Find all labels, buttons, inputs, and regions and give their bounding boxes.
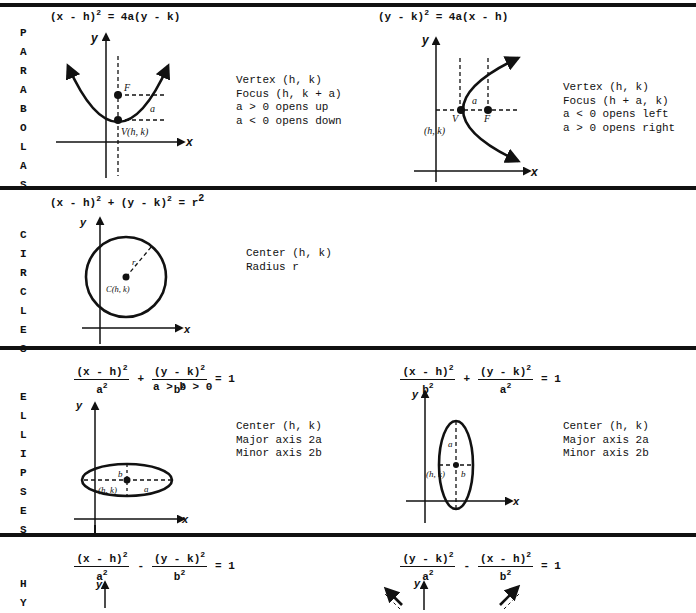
side-letter: E [20, 502, 27, 521]
vertical-parabola-equation: (x - h)2 = 4a(y - k) [50, 8, 180, 23]
numerator: (y - k) [402, 553, 448, 565]
note-line: Minor axis 2b [236, 447, 322, 461]
note-line: Radius r [246, 261, 332, 275]
right-asymptote [504, 593, 520, 609]
hyperbolas-side-label: H Y [20, 575, 27, 613]
section-divider-circles-ellipses [0, 346, 696, 350]
a-distance-label: a [150, 103, 155, 114]
equation-term: (x - h) [50, 197, 96, 209]
circle-notes: Center (h, k)Radius r [246, 247, 332, 274]
side-letter: R [20, 62, 27, 81]
exponent: 2 [103, 381, 108, 390]
side-letter: S [20, 483, 27, 502]
center-label: (h, k) [426, 469, 445, 479]
focus-label: F [483, 113, 491, 124]
note-line: a < 0 opens left [563, 108, 675, 122]
y-axis-label: y [411, 388, 419, 400]
equation-operator: + [137, 373, 144, 385]
x-axis-label: x [183, 323, 191, 335]
focus-point [114, 91, 122, 99]
a-distance-label: a [472, 95, 477, 106]
horizontal-ellipse-graph: y x b a (h, k) [60, 395, 200, 535]
horizontal-parabola-graph: y x a V F (h, k) [400, 30, 550, 185]
vertex-label: V(h, k) [121, 126, 149, 138]
y-axis-label: y [95, 578, 103, 590]
numerator: (x - h) [76, 553, 122, 565]
ellipse-axis-extension [94, 525, 96, 534]
side-letter: B [20, 100, 27, 119]
semi-major-label: a [448, 439, 453, 449]
side-letter: L [20, 138, 27, 157]
side-letter: S [20, 176, 27, 195]
horizontal-parabola-equation: (y - k)2 = 4a(x - h) [378, 8, 508, 23]
section-divider-top [0, 3, 696, 7]
radius-label: r [132, 257, 136, 267]
equation-term: = 4a(y - k) [101, 11, 180, 23]
numerator: (y - k) [480, 366, 526, 378]
focus-label: F [123, 82, 131, 93]
equation-rhs: = 1 [541, 560, 561, 572]
exponent: 2 [526, 363, 531, 372]
equation-rhs: = 1 [215, 373, 235, 385]
exponent: 2 [180, 568, 185, 577]
y-axis-label: y [75, 399, 83, 411]
exponent: 2 [123, 363, 128, 372]
section-divider-parabolas-circles [0, 186, 696, 190]
side-letter: H [20, 575, 27, 594]
exponent: 2 [449, 550, 454, 559]
note-line: Major axis 2a [236, 434, 322, 448]
exponent: 2 [526, 550, 531, 559]
exponent: 2 [198, 193, 204, 204]
note-line: Minor axis 2b [563, 447, 649, 461]
ellipses-side-label: E L L I P S E S [20, 388, 27, 540]
side-letter: A [20, 157, 27, 176]
circles-side-label: C I R C L E S [20, 226, 27, 359]
x-axis-label: x [181, 513, 189, 525]
numerator: (y - k) [154, 366, 200, 378]
center-point [123, 274, 130, 281]
side-letter: R [20, 264, 27, 283]
side-letter: S [20, 521, 27, 540]
equation-term: (x - h) [50, 11, 96, 23]
circle-equation: (x - h)2 + (y - k)2 = r2 [50, 193, 204, 209]
equation-operator: - [463, 560, 470, 572]
x-axis-label: x [530, 165, 539, 179]
note-line: Focus (h, k + a) [236, 88, 342, 102]
equation-operator: - [137, 560, 144, 572]
vertical-ellipse-notes: Center (h, k)Major axis 2aMinor axis 2b [563, 420, 649, 461]
note-line: Vertex (h, k) [236, 74, 342, 88]
vertex-point [457, 106, 465, 114]
note-line: Focus (h + a, k) [563, 95, 675, 109]
exponent: 2 [103, 568, 108, 577]
equation-term: = 4a(x - h) [429, 11, 508, 23]
vertex-point [114, 116, 122, 124]
exponent: 2 [449, 363, 454, 372]
numerator: (x - h) [76, 366, 122, 378]
x-axis-label: x [185, 135, 194, 149]
side-letter: E [20, 388, 27, 407]
vertical-ellipse-graph: y x a b (h, k) [400, 385, 530, 530]
y-axis-label: y [413, 577, 421, 589]
semi-major-label: a [144, 484, 149, 494]
side-letter: E [20, 321, 27, 340]
center-point [124, 477, 131, 484]
fraction: (y - k)2b2 [152, 550, 207, 582]
side-letter: L [20, 426, 27, 445]
side-letter: A [20, 81, 27, 100]
horizontal-ellipse-notes: Center (h, k)Major axis 2aMinor axis 2b [236, 420, 322, 461]
vertex-label: V [452, 113, 460, 124]
equation-operator: + [101, 197, 121, 209]
side-letter: A [20, 43, 27, 62]
side-letter: P [20, 24, 27, 43]
equation-term: = r [172, 197, 198, 209]
parabolas-side-label: P A R A B O L A S [20, 24, 27, 195]
side-letter: L [20, 407, 27, 426]
y-axis-label: y [421, 33, 430, 47]
radius-line [126, 246, 152, 277]
numerator: (y - k) [154, 553, 200, 565]
horizontal-hyperbola-graph: y [88, 578, 148, 608]
center-label: (h, k) [98, 485, 117, 495]
right-branch [500, 587, 518, 605]
note-line: a < 0 opens down [236, 115, 342, 129]
equation-term: (y - k) [378, 11, 424, 23]
